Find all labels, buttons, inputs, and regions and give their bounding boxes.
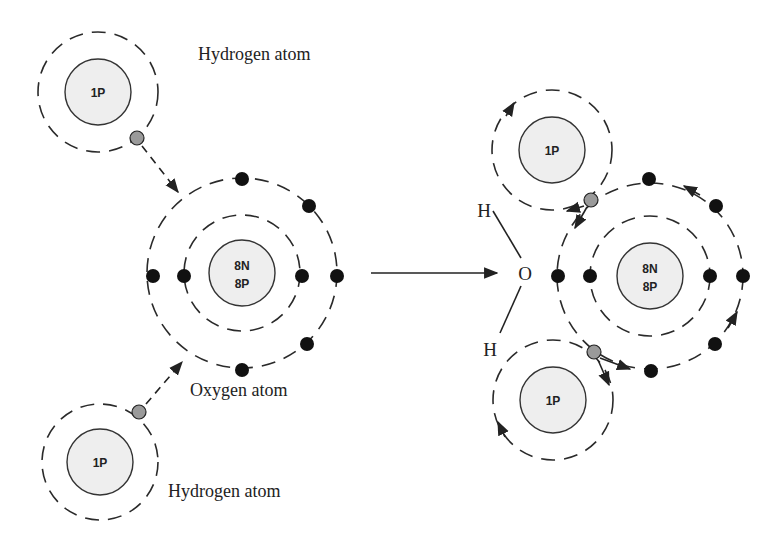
hydrogen-atom-top-right: 1P [492, 90, 612, 228]
formula-o: O [518, 263, 532, 284]
diagram-canvas: 1P Hydrogen atom 8N 8P Oxygen atom 1P Hy… [0, 0, 781, 546]
hydrogen-electron [132, 405, 146, 419]
electron [235, 172, 249, 186]
bond-top [493, 211, 521, 258]
electron [642, 172, 656, 186]
hydrogen-electron [130, 131, 144, 145]
electron [709, 199, 723, 213]
orbit-direction-arrow [684, 186, 700, 195]
water-formation-diagram: 1P Hydrogen atom 8N 8P Oxygen atom 1P Hy… [0, 0, 781, 546]
formula-h-bottom: H [483, 339, 497, 360]
electron [300, 337, 314, 351]
bond-bottom [500, 286, 521, 333]
electron [330, 269, 344, 283]
electron [708, 337, 722, 351]
electron [302, 199, 316, 213]
electron-path-arrow [142, 146, 178, 192]
orbit-direction-arrow [728, 312, 737, 328]
electron [644, 364, 658, 378]
nucleus-label: 1P [546, 394, 561, 408]
nucleus-label: 1P [93, 456, 108, 470]
nucleus-label-protons: 8P [235, 277, 250, 291]
electron [146, 269, 160, 283]
electron [703, 269, 717, 283]
electron [583, 269, 597, 283]
hydrogen-label-top: Hydrogen atom [198, 44, 310, 64]
nucleus-label: 1P [545, 144, 560, 158]
hydrogen-label-bottom: Hydrogen atom [168, 481, 280, 501]
oxygen-nucleus [209, 240, 275, 306]
electron-path-arrow [146, 362, 182, 404]
orbit-direction-arrow [600, 358, 630, 369]
electron [295, 269, 309, 283]
hydrogen-atom-top-left: 1P Hydrogen atom [38, 32, 310, 192]
nucleus-label-protons: 8P [643, 280, 658, 294]
electron [235, 363, 249, 377]
nucleus-label-neutrons: 8N [234, 259, 249, 273]
structural-formula: H O H [477, 200, 532, 360]
oxygen-nucleus [617, 243, 683, 309]
nucleus-label: 1P [91, 86, 106, 100]
shared-electron [584, 193, 598, 207]
orbit-direction-arrow [498, 422, 505, 437]
electron [551, 269, 565, 283]
shared-electron [587, 345, 601, 359]
oxygen-atom-left: 8N 8P Oxygen atom [146, 172, 344, 400]
oxygen-label: Oxygen atom [190, 380, 287, 400]
electron [736, 269, 750, 283]
electron [177, 269, 191, 283]
orbit-direction-arrow [598, 360, 609, 385]
formula-h-top: H [477, 200, 491, 221]
nucleus-label-neutrons: 8N [642, 262, 657, 276]
hydrogen-atom-bottom-right: 1P [493, 340, 630, 460]
